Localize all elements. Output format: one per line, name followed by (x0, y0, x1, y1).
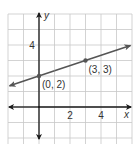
data-point (83, 58, 87, 62)
y-axis-label: y (43, 10, 50, 21)
grid-lines (8, 14, 132, 144)
x-tick-label: 4 (98, 110, 104, 121)
point-label: (0, 2) (42, 79, 65, 90)
x-tick-label: 2 (67, 110, 73, 121)
y-tick-labels: 4 (29, 40, 35, 51)
point-label: (3, 3) (89, 64, 112, 75)
y-tick-label: 4 (29, 40, 35, 51)
plotted-points: (0, 2)(3, 3) (37, 58, 112, 90)
coordinate-plane-graph: (0, 2)(3, 3) y x 24 4 (0, 0, 139, 145)
data-point (37, 74, 41, 78)
x-axis-label: x (123, 109, 130, 120)
